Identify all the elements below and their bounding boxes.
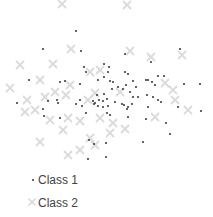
class-1-point	[88, 139, 90, 141]
legend-label-class-2: Class 2	[38, 196, 78, 210]
class-1-point	[200, 110, 202, 112]
class-1-point	[124, 71, 126, 73]
class-1-point	[98, 99, 100, 101]
class-1-point	[121, 103, 123, 105]
class-1-point	[165, 122, 167, 124]
class-1-point	[75, 103, 77, 105]
class-2-point	[97, 67, 104, 74]
class-2-point	[37, 139, 44, 146]
class-1-point	[43, 115, 45, 117]
class-1-point	[142, 141, 144, 143]
class-1-point	[160, 101, 162, 103]
class-1-point	[108, 66, 110, 68]
legend-entry-class-2: Class 2	[29, 196, 78, 210]
class-1-point	[145, 79, 147, 81]
class-1-point	[122, 88, 124, 90]
class-1-point	[127, 116, 129, 118]
class-1-point	[28, 79, 30, 81]
legend-marker-class-2	[29, 199, 35, 205]
class-1-point	[16, 102, 18, 104]
legend-label-class-1: Class 1	[38, 173, 78, 187]
class-1-point	[102, 106, 104, 108]
class-2-point	[60, 127, 67, 134]
legend: Class 1 Class 2	[29, 173, 78, 210]
class-2-point	[68, 46, 75, 53]
class-2-point	[172, 97, 179, 104]
class-1-point	[126, 108, 128, 110]
class-1-point	[123, 104, 125, 106]
class-1-point	[106, 112, 108, 114]
class-1-point	[47, 100, 49, 102]
class-1-point	[93, 143, 95, 145]
class-1-point	[85, 112, 87, 114]
legend-marker-class-1	[32, 179, 34, 181]
class-2-point	[148, 54, 155, 61]
class-1-point	[147, 106, 149, 108]
class-1-point	[152, 96, 154, 98]
class-1-point	[42, 48, 44, 50]
class-1-point	[96, 94, 98, 96]
class-2-point	[17, 62, 24, 69]
class-1-point	[102, 100, 104, 102]
class-1-point	[117, 86, 119, 88]
class-1-point	[145, 118, 147, 120]
class-2-point	[65, 115, 72, 122]
class-2-point	[87, 69, 94, 76]
class-2-point	[65, 152, 72, 159]
class-1-point	[42, 108, 44, 110]
class-1-point	[87, 158, 89, 160]
legend-entry-class-1: Class 1	[32, 173, 78, 187]
class-2-point	[42, 94, 49, 101]
class-1-point	[79, 83, 81, 85]
class-2-point	[185, 107, 192, 114]
class-1-point	[57, 102, 59, 104]
class-2-point	[179, 52, 186, 59]
class-1-point	[135, 86, 137, 88]
class-2-point	[97, 115, 104, 122]
class-2-point	[85, 97, 92, 104]
class-1-point	[147, 79, 149, 81]
class-2-point	[122, 126, 129, 133]
class-2-point	[152, 114, 159, 121]
class-1-point	[105, 142, 107, 144]
class-2-point	[124, 2, 131, 9]
class-1-point	[85, 71, 87, 73]
class-1-point	[75, 30, 77, 32]
class-1-point	[81, 105, 83, 107]
class-1-point	[127, 73, 129, 75]
class-1-point	[109, 114, 111, 116]
class-1-point	[150, 61, 152, 63]
class-2-point	[59, 1, 66, 8]
class-1-point	[131, 103, 133, 105]
class-1-point	[183, 83, 185, 85]
class-2-point	[63, 92, 70, 99]
class-2-series	[7, 1, 192, 159]
class-2-point	[92, 142, 99, 149]
class-1-point	[146, 94, 148, 96]
class-2-point	[77, 147, 84, 154]
class-2-point	[24, 97, 31, 104]
class-1-point	[103, 93, 105, 95]
class-1-point	[177, 106, 179, 108]
class-2-point	[50, 61, 57, 68]
class-2-point	[7, 85, 14, 92]
class-1-point	[103, 63, 105, 65]
class-1-point	[132, 96, 134, 98]
class-1-point	[64, 80, 66, 82]
class-2-point	[77, 118, 84, 125]
class-1-point	[127, 106, 129, 108]
scatter-plot: Class 1 Class 2	[0, 0, 213, 217]
class-1-point	[93, 103, 95, 105]
class-1-point	[132, 80, 134, 82]
class-1-point	[59, 117, 61, 119]
class-1-point	[79, 99, 81, 101]
class-1-point	[157, 99, 159, 101]
class-1-point	[114, 101, 116, 103]
class-1-point	[125, 84, 127, 86]
class-2-point	[162, 80, 169, 87]
class-1-point	[80, 50, 82, 52]
class-1-point	[103, 76, 105, 78]
class-1-point	[83, 66, 85, 68]
class-1-point	[169, 133, 171, 135]
class-1-point	[97, 105, 99, 107]
